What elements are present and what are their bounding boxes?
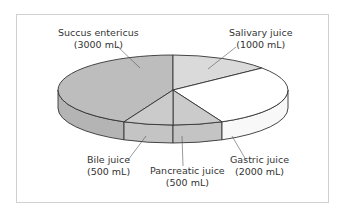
label-salivary-juice: Salivary juice (1000 mL) (229, 27, 293, 51)
label-value: (2000 mL) (230, 166, 289, 178)
label-succus-entericus: Succus entericus (3000 mL) (58, 27, 139, 51)
label-value: (500 mL) (87, 166, 130, 178)
label-value: (500 mL) (150, 177, 225, 189)
label-bile-juice: Bile juice (500 mL) (87, 154, 130, 178)
label-pancreatic-juice: Pancreatic juice (500 mL) (150, 165, 225, 189)
label-gastric-juice: Gastric juice (2000 mL) (230, 154, 289, 178)
label-name: Succus entericus (58, 27, 139, 39)
label-name: Salivary juice (229, 27, 293, 39)
label-name: Gastric juice (230, 154, 289, 166)
label-value: (3000 mL) (58, 39, 139, 51)
label-value: (1000 mL) (229, 39, 293, 51)
label-name: Bile juice (87, 154, 130, 166)
label-name: Pancreatic juice (150, 165, 225, 177)
